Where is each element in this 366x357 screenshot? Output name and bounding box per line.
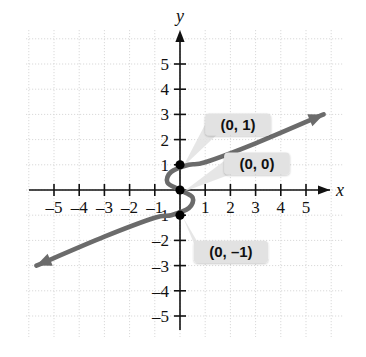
y-tick-label: –4 — [151, 282, 170, 301]
callout-label: (0, 0) — [239, 155, 274, 172]
y-tick-label: –2 — [151, 231, 169, 250]
y-tick-label: –3 — [151, 257, 169, 276]
coordinate-plane-figure: –5–4–3–2–11234554321–1–2–3–4–5 x y (0, 1… — [0, 0, 366, 357]
figure-background — [0, 0, 366, 357]
y-tick-label: 2 — [161, 131, 170, 150]
y-tick-label: 5 — [161, 55, 170, 74]
x-axis-label: x — [335, 180, 344, 200]
data-point-dot — [175, 160, 184, 169]
x-tick-label: –5 — [45, 198, 63, 217]
graph-canvas: –5–4–3–2–11234554321–1–2–3–4–5 x y (0, 1… — [0, 0, 366, 357]
x-tick-label: –3 — [95, 198, 113, 217]
y-tick-label: 1 — [161, 156, 170, 175]
x-tick-label: –2 — [120, 198, 138, 217]
x-tick-label: 3 — [251, 198, 260, 217]
y-tick-label: 4 — [161, 80, 170, 99]
callout-label-0-1: (0, 1) — [205, 113, 271, 135]
x-tick-label: 1 — [201, 198, 210, 217]
x-tick-label: 2 — [226, 198, 235, 217]
y-tick-label: –5 — [151, 307, 169, 326]
callout-label-0-0: (0, 0) — [224, 153, 290, 175]
data-point-dot — [175, 185, 184, 194]
x-tick-label: –4 — [70, 198, 89, 217]
data-point-dot — [175, 211, 184, 220]
callout-label: (0, 1) — [220, 116, 255, 133]
callout-label: (0, –1) — [209, 243, 252, 260]
y-axis-label: y — [174, 6, 184, 26]
x-tick-label: 4 — [277, 198, 286, 217]
y-tick-label: 3 — [161, 105, 170, 124]
x-tick-label: 5 — [302, 198, 311, 217]
callout-label-0-neg1: (0, –1) — [194, 241, 268, 263]
